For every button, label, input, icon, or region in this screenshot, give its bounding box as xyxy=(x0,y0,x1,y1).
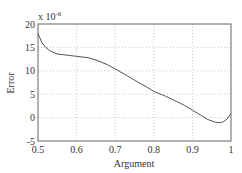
y-tick-label: 15 xyxy=(25,42,35,53)
x-tick-label: 0.8 xyxy=(148,144,161,155)
exponent-label: x 10-6 xyxy=(38,10,62,22)
axes-box xyxy=(38,24,231,141)
y-tick-label: 20 xyxy=(25,19,35,30)
x-tick-label: 0.9 xyxy=(186,144,199,155)
y-tick-label: -5 xyxy=(27,136,35,147)
error-chart: 0.50.60.70.80.91-505101520 x 10-6 Argume… xyxy=(0,0,242,173)
y-tick-label: 5 xyxy=(30,89,35,100)
x-tick-label: 0.6 xyxy=(70,144,83,155)
x-tick-label: 1 xyxy=(229,144,234,155)
grid-lines xyxy=(38,24,231,141)
y-axis-label: Error xyxy=(5,72,16,94)
y-tick-label: 10 xyxy=(25,65,35,76)
x-tick-label: 0.7 xyxy=(109,144,122,155)
ticks: 0.50.60.70.80.91-505101520 xyxy=(25,19,234,156)
error-curve xyxy=(38,33,231,122)
x-axis-label: Argument xyxy=(114,158,155,169)
y-tick-label: 0 xyxy=(30,112,35,123)
